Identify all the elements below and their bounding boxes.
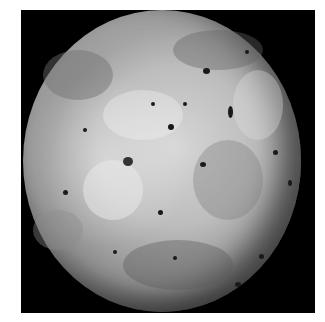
crater-spot	[151, 102, 155, 106]
surface-patch	[103, 90, 183, 140]
surface-patch	[43, 50, 113, 100]
crater-spot	[228, 106, 233, 118]
crater-spot	[113, 250, 117, 254]
crater-spot	[245, 50, 249, 54]
crater-spot	[63, 190, 68, 195]
crater-spot	[235, 282, 241, 287]
surface-patch	[123, 240, 233, 290]
crater-spot	[173, 256, 177, 260]
surface-patch	[83, 160, 143, 220]
crater-spot	[273, 150, 278, 155]
crater-spot	[259, 254, 264, 259]
surface-patch	[233, 70, 283, 140]
crater-spot	[183, 102, 187, 106]
moon-globe	[23, 10, 301, 312]
crater-spot	[158, 210, 163, 215]
surface-patch	[33, 210, 83, 250]
moon-photo-frame	[21, 10, 315, 313]
crater-spot	[83, 128, 87, 132]
crater-spot	[203, 68, 210, 74]
crater-spot	[288, 180, 292, 186]
crater-spot	[200, 162, 206, 167]
image-caption	[0, 314, 325, 322]
surface-patch	[193, 140, 263, 220]
crater-spot	[123, 157, 133, 166]
surface-patch	[173, 30, 263, 70]
crater-spot	[168, 124, 174, 130]
